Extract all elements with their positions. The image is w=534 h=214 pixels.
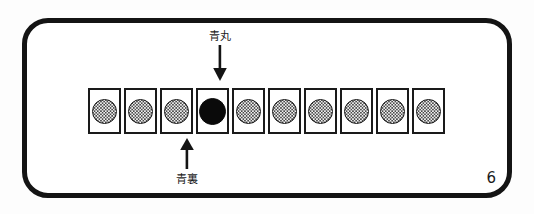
annotation-bottom: 青裏 bbox=[145, 138, 229, 186]
page-number: 6 bbox=[486, 171, 496, 186]
stone-blue-back bbox=[128, 99, 153, 124]
arrow-up-icon bbox=[178, 138, 196, 170]
tile-strip bbox=[88, 88, 445, 134]
tile-7[interactable] bbox=[304, 88, 337, 134]
stone-blue-back bbox=[236, 99, 261, 124]
stone-blue-back bbox=[272, 99, 297, 124]
tile-1[interactable] bbox=[88, 88, 121, 134]
arrow-down-icon bbox=[211, 43, 229, 83]
stone-blue-circle bbox=[199, 98, 226, 125]
tile-10[interactable] bbox=[412, 88, 445, 134]
stone-blue-back bbox=[308, 99, 333, 124]
annotation-top: 青丸 bbox=[178, 30, 262, 83]
tile-2[interactable] bbox=[124, 88, 157, 134]
tile-6[interactable] bbox=[268, 88, 301, 134]
stone-blue-back bbox=[380, 99, 405, 124]
tile-3[interactable] bbox=[160, 88, 193, 134]
stone-blue-back bbox=[344, 99, 369, 124]
annotation-top-label: 青丸 bbox=[209, 30, 232, 43]
stone-blue-back bbox=[92, 99, 117, 124]
tile-9[interactable] bbox=[376, 88, 409, 134]
annotation-bottom-label: 青裏 bbox=[176, 173, 199, 186]
figure-root: 青丸 bbox=[0, 0, 534, 214]
tile-8[interactable] bbox=[340, 88, 373, 134]
tile-4[interactable] bbox=[196, 88, 229, 134]
tile-5[interactable] bbox=[232, 88, 265, 134]
stone-blue-back bbox=[164, 99, 189, 124]
stone-blue-back bbox=[416, 99, 441, 124]
